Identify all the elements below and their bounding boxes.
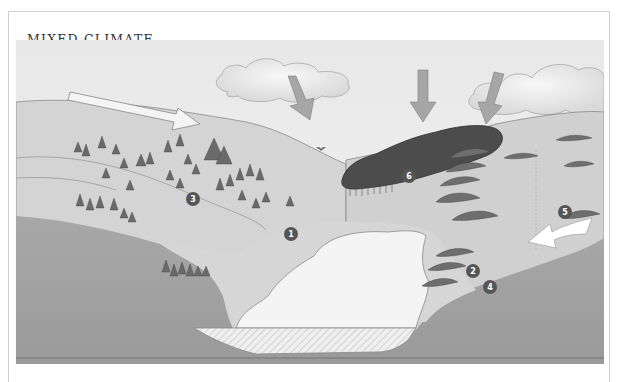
svg-text:1: 1 [288, 230, 294, 239]
label-3: 3 [186, 192, 200, 206]
climate-illustration: 1 2 3 4 5 6 [16, 40, 604, 364]
svg-text:3: 3 [190, 195, 196, 204]
label-2: 2 [466, 264, 480, 278]
svg-text:2: 2 [470, 267, 476, 276]
svg-text:4: 4 [487, 283, 493, 292]
label-4: 4 [483, 280, 497, 294]
label-5: 5 [558, 205, 572, 219]
label-1: 1 [284, 227, 298, 241]
svg-text:5: 5 [562, 208, 568, 217]
label-6: 6 [402, 169, 416, 183]
svg-text:6: 6 [406, 172, 412, 181]
